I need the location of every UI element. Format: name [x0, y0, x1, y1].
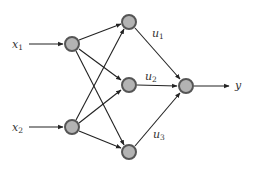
label-x1: x1 — [12, 38, 23, 52]
hidden-node-2 — [122, 78, 136, 92]
edge-i1-h1 — [79, 24, 121, 40]
neural-network-diagram: x1 x2 u1 u2 u3 y — [0, 0, 256, 170]
label-u1: u1 — [152, 27, 164, 41]
edge-i2-h2 — [79, 90, 121, 123]
label-x2: x2 — [12, 121, 23, 135]
output-node — [179, 79, 193, 93]
edge-h2-out — [137, 85, 177, 86]
hidden-node-3 — [122, 145, 136, 159]
hidden-node-1 — [122, 15, 136, 29]
label-u3: u3 — [153, 128, 165, 142]
input-node-1 — [65, 37, 79, 51]
nodes — [65, 15, 193, 159]
label-y: y — [234, 79, 242, 92]
edge-i2-h3 — [79, 131, 121, 148]
label-u2: u2 — [145, 70, 157, 84]
input-node-2 — [65, 120, 79, 134]
